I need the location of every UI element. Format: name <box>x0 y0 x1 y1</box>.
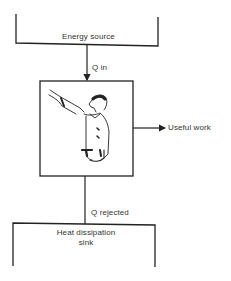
man-worker-reaching-icon <box>49 90 109 161</box>
heat-sink-label-line1: Heat dissipation <box>54 228 118 238</box>
q-rejected-label: Q rejected <box>91 208 129 217</box>
q-in-label: Q in <box>92 63 107 72</box>
heat-sink-label-line2: sink <box>54 238 118 248</box>
energy-source-box <box>16 14 158 46</box>
energy-source-label: Energy source <box>62 32 115 41</box>
useful-work-label: Useful work <box>168 123 211 132</box>
engine-box <box>40 81 133 176</box>
heat-sink-label: Heat dissipation sink <box>54 228 118 248</box>
